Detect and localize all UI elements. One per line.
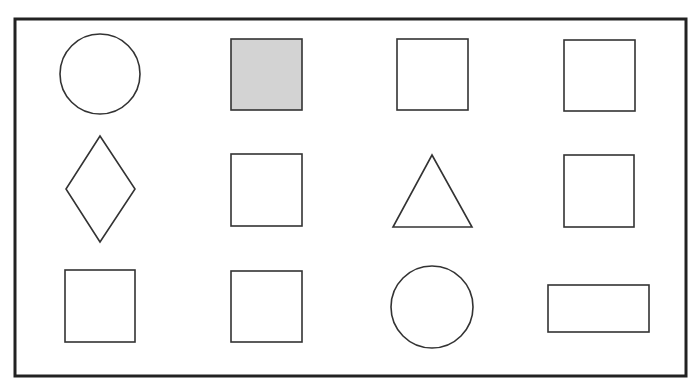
shapes-group <box>60 34 649 348</box>
square-r3c1 <box>65 270 135 342</box>
rectangle-r3c4 <box>548 285 649 332</box>
square-r3c2 <box>231 271 302 342</box>
square-r2c2 <box>231 154 302 226</box>
diamond-r2c1 <box>66 136 135 242</box>
filled-square-r1c2 <box>231 39 302 110</box>
circle-r1c1 <box>60 34 140 114</box>
diagram-frame <box>15 19 686 376</box>
circle-r3c3 <box>391 266 473 348</box>
square-r1c3 <box>397 39 468 110</box>
square-r2c4 <box>564 155 634 227</box>
shape-grid-diagram <box>0 0 698 389</box>
square-r1c4 <box>564 40 635 111</box>
triangle-r2c3 <box>393 155 472 227</box>
